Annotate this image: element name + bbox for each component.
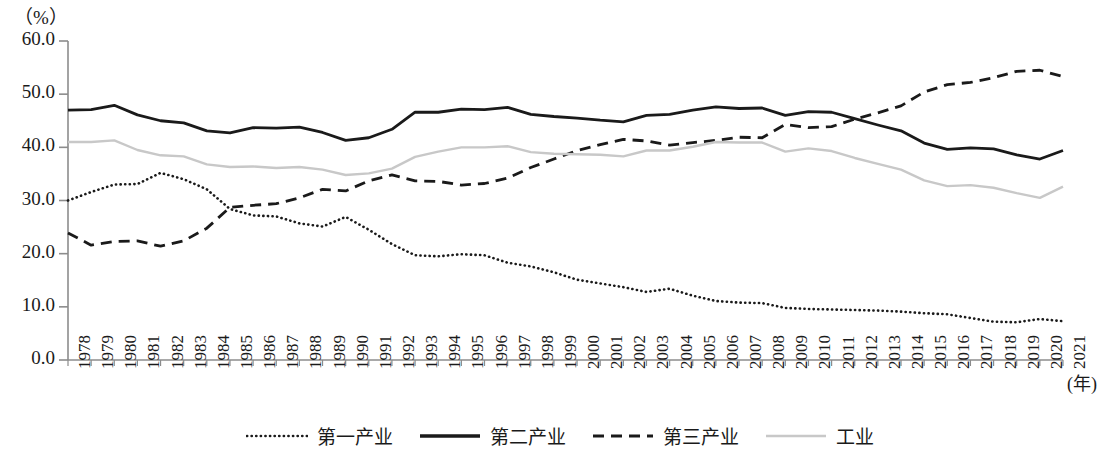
series-line-1: [68, 173, 1063, 322]
series-line-3: [68, 70, 1063, 246]
legend-item-3[interactable]: 第三产业: [592, 422, 739, 449]
solid-line-swatch: [419, 430, 481, 442]
chart-page: （%） 60.050.040.030.020.010.00.0 19781979…: [0, 0, 1119, 451]
x-axis-tick-label: 1991: [376, 335, 396, 369]
x-axis-tick-label: 2008: [769, 335, 789, 369]
x-axis-tick-label: 1988: [306, 335, 326, 369]
chart-legend: 第一产业第二产业第三产业工业: [0, 422, 1119, 449]
dotted-line-swatch: [246, 430, 308, 442]
x-axis-tick-label: 1981: [144, 335, 164, 369]
series-line-2: [68, 105, 1063, 159]
x-axis-tick-label: 2018: [1001, 335, 1021, 369]
y-axis-tick-label: 40.0: [0, 134, 55, 156]
series-line-4: [68, 140, 1063, 197]
x-axis-tick-label: 2002: [630, 335, 650, 369]
y-axis-tick-label: 10.0: [0, 294, 55, 316]
y-axis-tick-label: 60.0: [0, 28, 55, 50]
legend-item-1[interactable]: 第一产业: [246, 422, 393, 449]
x-axis-tick-label: 1979: [98, 335, 118, 369]
series-group: [68, 70, 1063, 322]
legend-item-4[interactable]: 工业: [765, 422, 874, 449]
legend-label: 第一产业: [317, 422, 393, 449]
x-axis-tick-label: 2020: [1047, 335, 1067, 369]
x-axis-tick-label: 2004: [677, 335, 697, 369]
x-axis-tick-label: 1978: [75, 335, 95, 369]
x-axis-tick-label: 2014: [908, 335, 928, 369]
y-axis-tick-label: 20.0: [0, 241, 55, 263]
legend-label: 第三产业: [663, 422, 739, 449]
x-axis-tick-label: 1996: [492, 335, 512, 369]
x-axis-tick-label: 2012: [862, 335, 882, 369]
x-axis-tick-label: 2006: [723, 335, 743, 369]
legend-label: 第二产业: [490, 422, 566, 449]
x-axis-tick-label: 2021: [1070, 335, 1090, 369]
x-axis-tick-label: 1984: [214, 335, 234, 369]
x-axis-tick-label: 2003: [653, 335, 673, 369]
y-axis-tick-label: 50.0: [0, 81, 55, 103]
x-axis-title: (年): [1067, 369, 1097, 395]
legend-label: 工业: [836, 422, 874, 449]
x-axis-tick-label: 1985: [237, 335, 257, 369]
x-axis-tick-label: 1983: [191, 335, 211, 369]
x-axis-tick-label: 2016: [954, 335, 974, 369]
gray-line-swatch: [765, 430, 827, 442]
x-axis-tick-label: 2013: [885, 335, 905, 369]
x-axis-tick-label: 1989: [330, 335, 350, 369]
x-axis-tick-label: 2011: [839, 336, 859, 369]
x-axis-tick-label: 2000: [584, 335, 604, 369]
x-axis-tick-label: 2007: [746, 335, 766, 369]
legend-item-2[interactable]: 第二产业: [419, 422, 566, 449]
x-axis-tick-label: 1986: [260, 335, 280, 369]
x-axis-tick-label: 1990: [353, 335, 373, 369]
x-axis-tick-label: 1987: [283, 335, 303, 369]
x-axis-tick-label: 2015: [931, 335, 951, 369]
x-axis-tick-label: 1980: [121, 335, 141, 369]
x-axis-tick-label: 1997: [515, 335, 535, 369]
x-axis-tick-label: 2019: [1024, 335, 1044, 369]
x-axis-tick-label: 2005: [700, 335, 720, 369]
chart-canvas: [0, 0, 1119, 451]
x-axis-tick-label: 1999: [561, 335, 581, 369]
y-axis-tick-label: 0.0: [0, 347, 55, 369]
y-axis-tick-label: 30.0: [0, 188, 55, 210]
x-axis-tick-label: 2009: [792, 335, 812, 369]
x-axis-tick-label: 2010: [815, 335, 835, 369]
x-axis-tick-label: 1998: [538, 335, 558, 369]
x-axis-tick-label: 1994: [445, 335, 465, 369]
x-axis-tick-label: 1992: [399, 335, 419, 369]
x-axis-tick-label: 1993: [422, 335, 442, 369]
x-axis-tick-label: 2017: [977, 335, 997, 369]
axes-group: [59, 41, 1063, 366]
x-axis-tick-label: 2001: [607, 335, 627, 369]
x-axis-tick-label: 1982: [168, 335, 188, 369]
dashed-line-swatch: [592, 430, 654, 442]
x-axis-tick-label: 1995: [468, 335, 488, 369]
